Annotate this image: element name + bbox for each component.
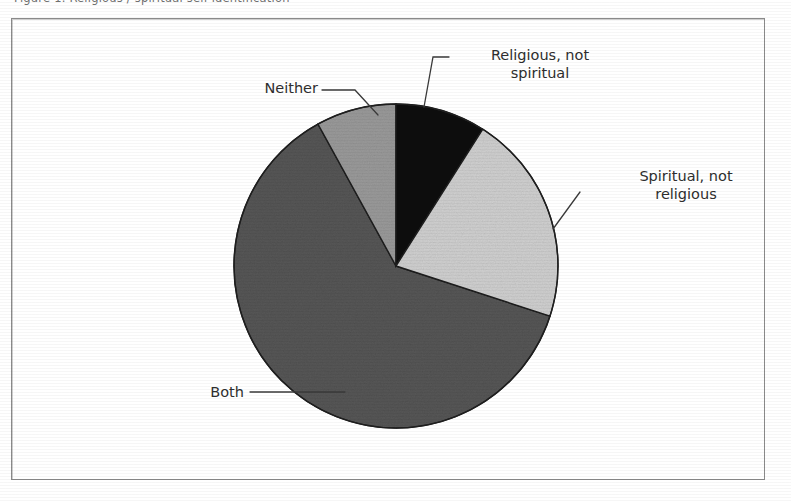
pie-label-neither: Neither — [228, 80, 318, 98]
pie-label-both: Both — [176, 384, 244, 402]
leader-line-spiritual — [553, 192, 580, 229]
pie-label-spiritual-not-religious: Spiritual, not religious — [596, 168, 776, 203]
figure-root: Figure 1. Religious / spiritual self-ide… — [0, 0, 791, 501]
pie-label-religious-not-spiritual: Religious, not spiritual — [455, 47, 625, 82]
pie-chart — [0, 0, 791, 501]
pie-slices — [234, 104, 558, 428]
leader-line-religious — [424, 57, 449, 107]
